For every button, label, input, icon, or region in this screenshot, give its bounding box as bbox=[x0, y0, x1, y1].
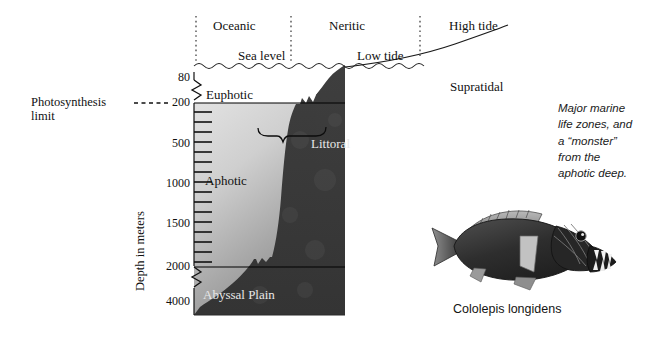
depth-tick-2000: 2000 bbox=[150, 259, 190, 274]
fish-illustration bbox=[424, 196, 620, 296]
depth-tick-200: 200 bbox=[150, 95, 190, 110]
label-sea-level: Sea level bbox=[238, 49, 285, 64]
fish-eye bbox=[576, 231, 586, 241]
fish-mouth-teeth bbox=[587, 246, 616, 272]
depth-tick-1000: 1000 bbox=[150, 176, 190, 191]
depth-tick-500: 500 bbox=[150, 136, 190, 151]
label-low-tide: Low tide bbox=[357, 49, 404, 64]
figure-caption: Major marine life zones, and a “monster”… bbox=[558, 100, 658, 182]
depth-tick-1500: 1500 bbox=[150, 216, 190, 231]
zone-label-neritic: Neritic bbox=[329, 19, 365, 34]
figure-root: Oceanic Neritic High tide Sea level Low … bbox=[0, 0, 662, 338]
depth-tick-80: 80 bbox=[150, 70, 190, 85]
depth-tick-4000: 4000 bbox=[150, 294, 190, 309]
zone-label-supratidal: Supratidal bbox=[450, 80, 503, 95]
photosynthesis-limit-label: Photosynthesis limit bbox=[31, 95, 106, 123]
zone-label-oceanic: Oceanic bbox=[213, 19, 256, 34]
zone-label-littoral: Littoral bbox=[311, 137, 350, 152]
depth-axis-title: Depth in meters bbox=[133, 211, 148, 291]
zone-label-aphotic: Aphotic bbox=[205, 174, 247, 189]
zone-label-euphotic: Euphotic bbox=[206, 88, 253, 103]
specimen-name-label: Cololepis longidens bbox=[453, 302, 561, 316]
zone-label-abyssal-plain: Abyssal Plain bbox=[203, 288, 275, 303]
zone-label-high-tide: High tide bbox=[449, 19, 498, 34]
